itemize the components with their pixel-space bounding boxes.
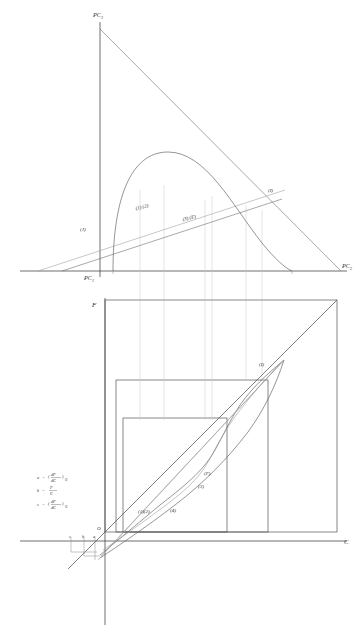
label-point-I-upper: (I): [268, 188, 273, 193]
svg-text:): ): [61, 501, 64, 506]
label-origin-O: O: [97, 526, 101, 531]
equation-c-equals: =: [42, 502, 45, 507]
label-pair-3-F: (3) (F): [182, 214, 197, 222]
equation-c-lhs: c: [37, 502, 39, 507]
chord-J-to-I: [38, 190, 285, 271]
origin-tick-construction: [71, 537, 100, 560]
technical-diagram: PC3 PC1 PC2 (1) (2) (3) (F) (I) (J): [0, 0, 363, 633]
svg-text:): ): [61, 474, 64, 479]
equation-a: a = ( dF dC ) O: [37, 472, 68, 483]
line-pair-12-b: [101, 360, 284, 556]
label-axis-F: F: [91, 301, 97, 309]
equation-a-numerator: dF: [51, 472, 56, 477]
sigmoid-curve-3: [103, 360, 284, 550]
equations-block: a = ( dF dC ) O b = F C c = (: [37, 472, 68, 510]
equation-b: b = F C: [37, 485, 57, 496]
equation-a-equals: =: [42, 475, 45, 480]
diagonal-extension: [68, 532, 105, 569]
projection-lines-upper: [140, 185, 262, 300]
equation-c: c = ( dF dC ) O: [37, 499, 68, 510]
label-point-F-lower: (F): [204, 471, 211, 476]
equation-a-lhs: a: [37, 475, 39, 480]
label-pc2: PC2: [341, 262, 352, 271]
svg-text:(: (: [48, 474, 50, 479]
chord-3F: [62, 199, 282, 271]
equation-a-subscript: O: [65, 478, 68, 482]
equation-b-equals: =: [42, 488, 45, 493]
tick-label-b: b: [82, 534, 84, 539]
equation-b-denominator: C: [50, 491, 53, 496]
label-point-I-lower: (I): [259, 362, 264, 367]
label-point-3-lower: (3): [198, 484, 204, 489]
label-pc3: PC3: [92, 11, 103, 20]
figure-root: PC3 PC1 PC2 (1) (2) (3) (F) (I) (J): [0, 0, 363, 633]
equation-b-lhs: b: [37, 488, 39, 493]
label-pair-12-lower: (1)(2): [138, 509, 150, 514]
label-axis-C: C: [344, 538, 349, 546]
tangent-apex-to-pc2: [100, 29, 341, 271]
inner-square: [123, 418, 227, 532]
svg-text:(: (: [48, 501, 50, 506]
tick-label-c: c: [69, 534, 71, 539]
equation-c-numerator: dF: [51, 499, 56, 504]
projection-lines-lower: [140, 300, 262, 420]
label-point-J: (J): [80, 227, 86, 232]
equation-c-subscript: O: [65, 505, 68, 509]
equation-a-denominator: dC: [51, 478, 56, 483]
equation-b-numerator: F: [49, 485, 53, 490]
tick-label-a: a: [93, 534, 95, 539]
lower-square-panel: F C O (I) (F) (3) (4) (1)(2) c b a a = (…: [20, 298, 349, 625]
upper-construction-panel: PC3 PC1 PC2 (1) (2) (3) (F) (I) (J): [20, 11, 352, 300]
equation-c-denominator: dC: [51, 505, 56, 510]
label-point-4-lower: (4): [170, 508, 176, 513]
label-pair-1-2: (1) (2): [135, 203, 149, 211]
label-pc1: PC1: [83, 274, 94, 283]
